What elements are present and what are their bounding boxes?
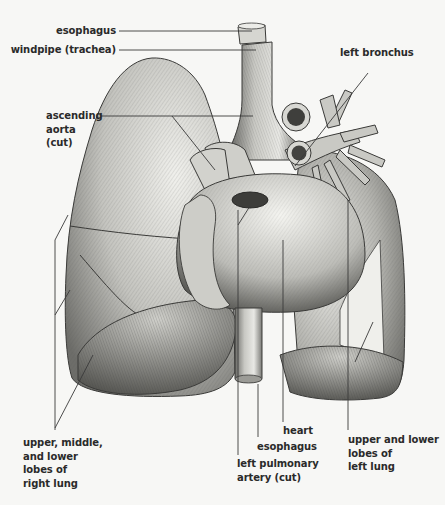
label-windpipe: windpipe (trachea) xyxy=(0,43,116,57)
esophagus-lower-segment xyxy=(235,308,262,383)
label-left-bronchus: left bronchus xyxy=(340,46,414,60)
label-esophagus-bottom: esophagus xyxy=(257,440,317,454)
label-left-pulmonary-artery: left pulmonary artery (cut) xyxy=(237,457,319,484)
label-heart: heart xyxy=(283,424,313,438)
label-right-lung-lobes: upper, middle, and lower lobes of right … xyxy=(23,436,103,490)
cut-vessel-upper xyxy=(282,103,310,131)
label-left-lung-lobes: upper and lower lobes of left lung xyxy=(348,433,439,474)
lungs-heart-illustration xyxy=(0,0,445,505)
trachea xyxy=(230,42,300,160)
esophagus-top-segment xyxy=(238,23,266,44)
label-ascending-aorta: ascending aorta (cut) xyxy=(46,109,103,150)
label-esophagus-top: esophagus xyxy=(40,24,116,38)
pulmonary-artery-cut xyxy=(232,192,268,208)
anatomy-figure: esophagus windpipe (trachea) left bronch… xyxy=(0,0,445,505)
